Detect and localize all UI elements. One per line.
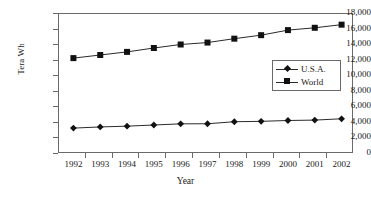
y-tick-mark [53,29,58,30]
y-tick-label: 0 [325,148,371,157]
y-tick-mark [53,60,58,61]
x-tick-mark [85,153,86,158]
x-tick-mark [273,153,274,158]
y-tick-mark [53,153,58,154]
x-tick-mark [165,153,166,158]
y-axis-title: Tera Wh [16,29,26,89]
x-tick-mark [192,153,193,158]
y-tick-mark [53,75,58,76]
legend: U.S.A. World [272,60,341,91]
y-tick-mark [53,137,58,138]
diamond-marker-icon [284,65,291,72]
legend-label-world: World [301,76,323,89]
x-tick-mark [138,153,139,158]
legend-label-usa: U.S.A. [301,63,326,76]
y-tick-mark [53,122,58,123]
x-tick-mark [299,153,300,158]
square-marker-icon [284,78,290,84]
legend-entry-usa: U.S.A. [276,63,340,76]
x-tick-mark [246,153,247,158]
y-tick-label: 14,000 [325,39,371,48]
x-tick-mark [326,153,327,158]
y-tick-label: 16,000 [325,24,371,33]
line-chart: Tera Wh 18,00016,00014,00012,00010,0008,… [0,0,371,197]
y-tick-mark [53,13,58,14]
x-tick-mark [112,153,113,158]
y-tick-label: 18,000 [325,8,371,17]
y-tick-mark [53,44,58,45]
y-tick-label: 2,000 [325,132,371,141]
legend-entry-world: World [276,76,340,89]
y-tick-mark [53,106,58,107]
x-tick-label: 2002 [322,159,362,169]
y-tick-mark [53,91,58,92]
y-tick-label: 4,000 [325,117,371,126]
x-axis-title: Year [0,176,371,187]
x-tick-mark [219,153,220,158]
y-tick-label: 6,000 [325,101,371,110]
